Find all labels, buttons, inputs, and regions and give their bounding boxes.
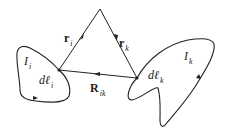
arrow-R-ik-icon xyxy=(94,72,100,76)
arrow-r-i-icon xyxy=(80,33,84,40)
arrow-loop-i-icon xyxy=(33,96,38,100)
label-r-k: rk xyxy=(119,34,129,50)
label-r-i: ri xyxy=(64,29,73,45)
label-I-k: Ik xyxy=(184,47,193,63)
diagram-canvas: ri rk Rik Ii Ik dℓi dℓk xyxy=(0,0,225,133)
label-I-i: Ii xyxy=(24,52,31,68)
label-R-ik: Rik xyxy=(90,79,105,95)
loop-k xyxy=(128,39,214,127)
label-dl-i: dℓi xyxy=(39,71,53,87)
label-dl-k: dℓk xyxy=(148,66,164,82)
arrow-loop-k-icon xyxy=(196,74,201,79)
arrow-r-k-icon xyxy=(113,34,118,40)
diagram-graphics xyxy=(0,0,225,133)
